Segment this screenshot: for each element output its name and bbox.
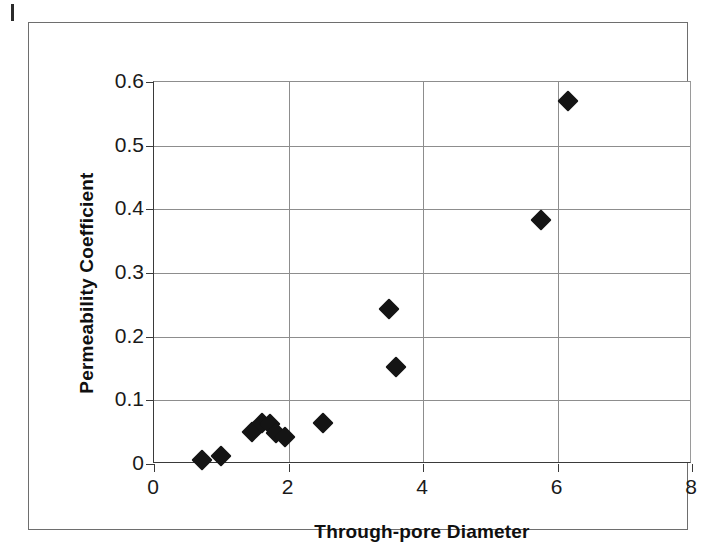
- y-axis-tick: [146, 273, 154, 274]
- data-point: [557, 90, 578, 111]
- plot-area: [153, 81, 691, 463]
- figure-frame: 00.10.20.30.40.50.6 02468 Through-pore D…: [28, 22, 688, 530]
- y-axis-tick: [146, 146, 154, 147]
- x-axis-title: Through-pore Diameter: [153, 521, 691, 543]
- scatter-markers: [154, 82, 690, 462]
- y-axis-tick-label: 0.2: [115, 324, 144, 348]
- y-axis-tick-label: 0.5: [115, 133, 144, 157]
- x-axis-tick-labels: 02468: [153, 463, 691, 503]
- data-point: [530, 210, 551, 231]
- y-axis-tick: [146, 400, 154, 401]
- data-point: [313, 413, 334, 434]
- x-axis-tick-label: 4: [416, 475, 428, 499]
- y-axis-title: Permeability Coefficient: [76, 133, 98, 433]
- y-axis-tick-label: 0.6: [115, 69, 144, 93]
- y-axis-tick-label: 0.1: [115, 387, 144, 411]
- x-axis-tick: [692, 464, 693, 472]
- y-axis-tick: [146, 82, 154, 83]
- y-axis-tick-label: 0.3: [115, 260, 144, 284]
- data-point: [379, 298, 400, 319]
- y-axis-tick: [146, 209, 154, 210]
- x-axis-tick-label: 0: [147, 475, 159, 499]
- y-axis-tick-label: 0.4: [115, 196, 144, 220]
- data-point: [385, 357, 406, 378]
- y-axis-tick: [146, 337, 154, 338]
- scan-artifact-mark: [11, 4, 14, 21]
- y-axis-tick-label: 0: [132, 451, 144, 475]
- x-axis-tick-label: 8: [685, 475, 697, 499]
- x-axis-tick-label: 6: [551, 475, 563, 499]
- x-axis-tick-label: 2: [282, 475, 294, 499]
